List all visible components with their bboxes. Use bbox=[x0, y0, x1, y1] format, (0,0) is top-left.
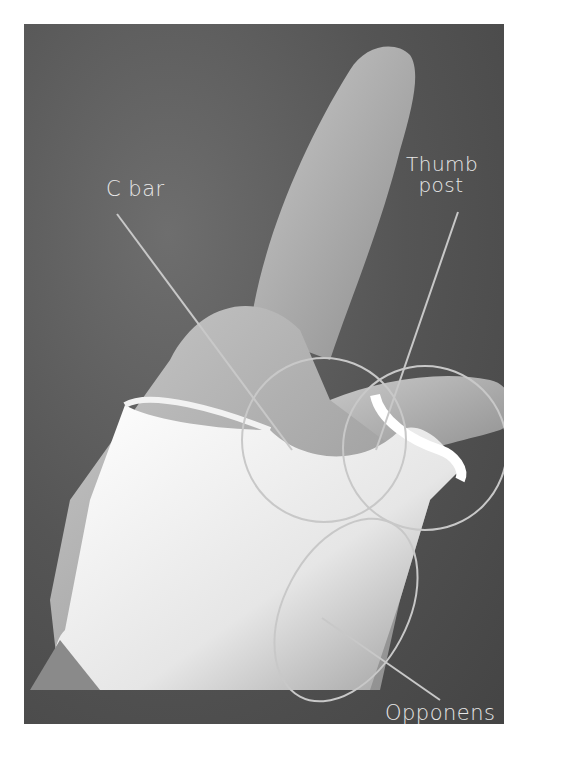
thumb-post-label-line1: Thumb bbox=[406, 154, 476, 175]
c-bar-label-text: C bar bbox=[106, 177, 165, 201]
thumb-post-label: Thumb post bbox=[406, 154, 476, 196]
c-bar-label: C bar bbox=[106, 178, 165, 200]
thumb-post-label-line2: post bbox=[406, 175, 476, 196]
opponens-bar-label: Opponens bar bbox=[385, 702, 504, 724]
orthosis-photo: C bar Thumb post Opponens bar bbox=[24, 24, 504, 724]
hand-illustration bbox=[24, 24, 504, 724]
opponens-bar-label-text: Opponens bar bbox=[385, 701, 496, 724]
splint-body bbox=[55, 405, 460, 690]
